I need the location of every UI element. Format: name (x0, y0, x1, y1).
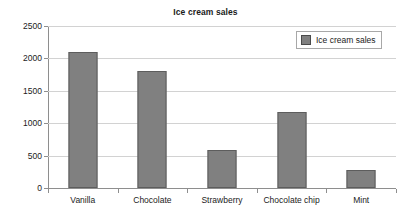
bar[interactable] (68, 52, 97, 188)
y-axis-tick (44, 58, 48, 59)
x-axis-tick-label: Strawberry (201, 196, 242, 205)
bar[interactable] (207, 150, 236, 188)
bar[interactable] (277, 112, 306, 188)
bar[interactable] (347, 170, 376, 188)
gridline (48, 188, 396, 189)
y-axis-tick (44, 91, 48, 92)
legend-label: Ice cream sales (316, 36, 376, 45)
bar-slot (118, 26, 188, 188)
chart-legend: Ice cream sales (296, 31, 382, 49)
y-axis-tick-label: 0 (2, 184, 42, 193)
y-axis-tick-label: 500 (2, 152, 42, 161)
y-axis-tick-label: 1500 (2, 87, 42, 96)
bar[interactable] (138, 71, 167, 188)
y-axis-tick-label: 2500 (2, 22, 42, 31)
bar-chart: Ice cream sales 05001000150020002500 Ice… (0, 0, 411, 221)
y-axis-tick-label: 2000 (2, 54, 42, 63)
plot-area (48, 26, 396, 188)
x-axis-tick (326, 189, 327, 193)
y-axis-tick (44, 156, 48, 157)
x-axis-tick-label: Chocolate (133, 196, 171, 205)
x-axis-tick (187, 189, 188, 193)
y-axis-tick-labels: 05001000150020002500 (0, 0, 42, 221)
y-axis-tick-label: 1000 (2, 119, 42, 128)
x-axis-tick (257, 189, 258, 193)
bar-slot (257, 26, 327, 188)
x-axis-tick-label: Chocolate chip (263, 196, 319, 205)
legend-swatch-icon (301, 35, 311, 45)
bar-slot (326, 26, 396, 188)
x-axis-tick-label: Vanilla (70, 196, 95, 205)
y-axis-tick (44, 26, 48, 27)
bar-slot (187, 26, 257, 188)
x-axis-tick (396, 189, 397, 193)
bar-slot (48, 26, 118, 188)
x-axis-tick-label: Mint (353, 196, 369, 205)
x-axis-tick (48, 189, 49, 193)
y-axis-tick (44, 123, 48, 124)
x-axis-tick (118, 189, 119, 193)
chart-title: Ice cream sales (0, 7, 411, 17)
